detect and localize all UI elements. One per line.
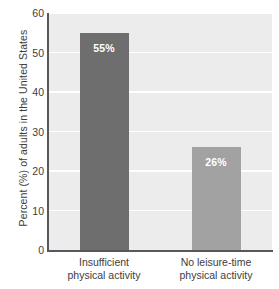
y-axis-line [47, 13, 49, 251]
plot-area: 55%26% [48, 13, 272, 250]
bar: 26% [192, 147, 241, 250]
y-axis-tick-labels: 0102030405060 [22, 13, 44, 250]
x-axis-line [47, 250, 273, 252]
bar-value-label: 55% [80, 42, 129, 54]
y-axis-tick-label: 10 [22, 205, 44, 216]
bar-chart: Percent (%) of adults in the United Stat… [0, 0, 279, 289]
y-axis-tick-label: 40 [22, 87, 44, 98]
x-axis-tick-label-line: physical activity [48, 269, 160, 282]
x-axis-tick-label: Insufficientphysical activity [48, 256, 160, 282]
gridline [48, 13, 272, 14]
x-axis-tick-label-line: No leisure-time [160, 256, 272, 269]
x-axis-tick-label: No leisure-timephysical activity [160, 256, 272, 282]
bar: 55% [80, 33, 129, 250]
y-axis-tick-label: 60 [22, 8, 44, 19]
x-axis-tick-label-line: Insufficient [48, 256, 160, 269]
y-axis-tick-label: 0 [22, 245, 44, 256]
bar-value-label: 26% [192, 156, 241, 168]
x-axis-tick-labels: Insufficientphysical activityNo leisure-… [48, 256, 272, 289]
y-axis-tick-label: 50 [22, 47, 44, 58]
y-axis-tick-label: 20 [22, 166, 44, 177]
y-axis-tick-label: 30 [22, 126, 44, 137]
x-axis-tick-label-line: physical activity [160, 269, 272, 282]
